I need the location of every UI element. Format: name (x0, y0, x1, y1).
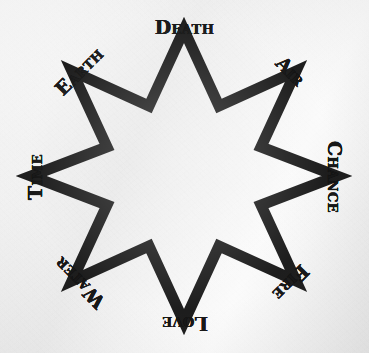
star-label-death: Death (115, 16, 255, 38)
star-label-chance: Chance (324, 107, 346, 247)
star-diagram-page: Death Air Chance Fire Love Water Time Ea… (0, 0, 369, 353)
star-label-earth: Earth (21, 13, 136, 128)
star-label-time: Time (24, 107, 46, 247)
star-labels: Death Air Chance Fire Love Water Time Ea… (0, 0, 369, 353)
